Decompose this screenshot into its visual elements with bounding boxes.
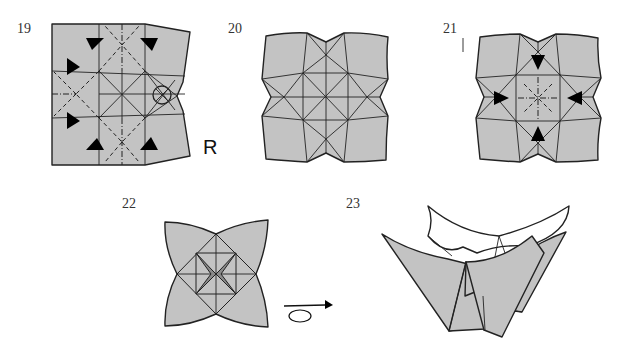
- turn-over-icon: [284, 300, 333, 322]
- step-21-diagram: [463, 34, 601, 162]
- step-23-diagram: [382, 206, 569, 337]
- step-22-diagram: [165, 220, 333, 327]
- diagram-canvas: .paper { fill:#c3c3c3; stroke:#222; stro…: [0, 0, 623, 351]
- step-20-diagram: [262, 33, 388, 162]
- step-19-diagram: [52, 24, 190, 165]
